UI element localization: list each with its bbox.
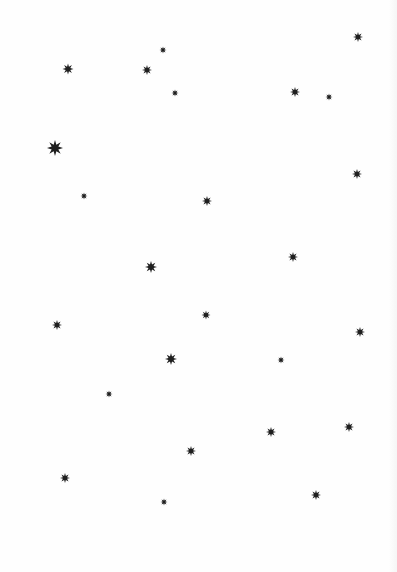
- star-icon: [106, 391, 113, 398]
- star-icon: [352, 169, 362, 179]
- star-icon: [290, 87, 300, 97]
- star-icon: [172, 90, 179, 97]
- star-icon: [202, 311, 211, 320]
- star-icon: [63, 64, 74, 75]
- star-icon: [60, 473, 70, 483]
- star-pattern-canvas: [0, 0, 397, 572]
- star-icon: [266, 427, 276, 437]
- star-icon: [161, 499, 168, 506]
- star-field: [0, 0, 397, 572]
- star-icon: [355, 327, 365, 337]
- star-icon: [142, 65, 152, 75]
- star-icon: [47, 140, 63, 156]
- star-icon: [288, 252, 298, 262]
- star-icon: [353, 32, 363, 42]
- star-icon: [160, 47, 167, 54]
- star-icon: [202, 196, 212, 206]
- star-icon: [311, 490, 321, 500]
- star-icon: [81, 193, 88, 200]
- star-icon: [52, 320, 62, 330]
- star-icon: [278, 357, 285, 364]
- star-icon: [186, 446, 196, 456]
- star-icon: [344, 422, 354, 432]
- star-icon: [165, 353, 177, 365]
- star-icon: [326, 94, 333, 101]
- star-icon: [145, 261, 157, 273]
